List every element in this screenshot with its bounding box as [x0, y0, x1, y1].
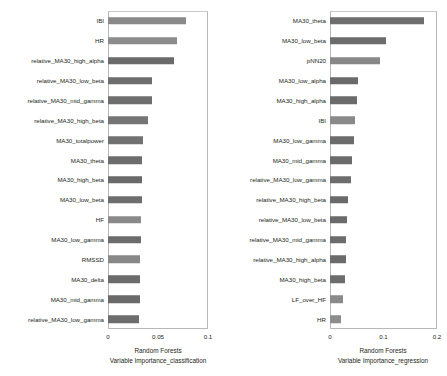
y-axis-tick-label: relative_MA30_low_beta	[223, 216, 330, 223]
bar-row: relative_MA30_low_gamma	[0, 309, 223, 329]
bar	[330, 236, 346, 244]
bar-rows-regression: MA30_thetaMA30_low_betapNN20MA30_low_alp…	[223, 11, 447, 329]
bar-row: relative_MA30_high_beta	[0, 110, 223, 130]
y-axis-tick-label: relative_MA30_high_alpha	[223, 256, 330, 263]
bar	[108, 236, 141, 244]
bar-track	[108, 91, 223, 111]
bar	[108, 156, 142, 164]
bar-track	[330, 289, 447, 309]
x-axis-title-line1: Random Forests	[323, 346, 443, 356]
y-axis-tick-label: MA30_low_gamma	[0, 236, 108, 243]
bar-row: HR	[0, 31, 223, 51]
y-axis-tick-label: pNN20	[223, 57, 330, 64]
bar	[108, 97, 152, 105]
y-axis-tick-label: relative_MA30_high_alpha	[0, 57, 108, 64]
y-axis-tick-label: relative_MA30_low_gamma	[223, 176, 330, 183]
bar-row: MA30_low_gamma	[0, 230, 223, 250]
bar	[108, 77, 152, 85]
bar	[108, 176, 142, 184]
bar	[108, 37, 177, 45]
bar-row: HR	[223, 309, 447, 329]
x-axis-tick-label: 0.2	[433, 333, 442, 340]
bar-track	[108, 289, 223, 309]
bar	[330, 156, 352, 164]
y-axis-tick-label: HR	[0, 37, 108, 44]
bar-track	[330, 309, 447, 329]
y-axis-tick-label: MA30_theta	[0, 157, 108, 164]
y-axis-tick-label: IBI	[0, 17, 108, 24]
y-axis-tick-label: RMSSD	[0, 256, 108, 263]
bar-row: MA30_mid_gamma	[0, 289, 223, 309]
x-axis-tick-label: 0.1	[379, 333, 388, 340]
bar	[108, 196, 142, 204]
bar-track	[330, 130, 447, 150]
y-axis-tick-label: MA30_low_beta	[0, 196, 108, 203]
y-axis-tick-label: HF	[0, 216, 108, 223]
bar-track	[108, 170, 223, 190]
y-axis-tick-label: MA30_mid_gamma	[223, 157, 330, 164]
bar-row: MA30_high_beta	[223, 269, 447, 289]
figure-random-forests-variable-importance: IBIHRrelative_MA30_high_alpharelative_MA…	[0, 0, 447, 376]
y-axis-tick-label: HR	[223, 316, 330, 323]
x-axis-title-line2: Variable Importance_regression	[323, 356, 443, 366]
bar	[330, 37, 386, 45]
bar	[108, 136, 143, 144]
y-axis-tick-label: MA30_low_gamma	[223, 137, 330, 144]
bar-track	[108, 110, 223, 130]
y-axis-tick-label: IBI	[223, 117, 330, 124]
bar-row: MA30_totalpower	[0, 130, 223, 150]
y-axis-tick-label: MA30_low_beta	[223, 37, 330, 44]
panel-regression: MA30_thetaMA30_low_betapNN20MA30_low_alp…	[223, 0, 447, 376]
y-axis-tick-label: MA30_mid_gamma	[0, 296, 108, 303]
bar-track	[330, 51, 447, 71]
bar-row: IBI	[0, 11, 223, 31]
bar-track	[108, 269, 223, 289]
bar-track	[108, 190, 223, 210]
bar	[108, 216, 141, 224]
x-axis-title-classification: Random Forests Variable Importance_class…	[108, 346, 208, 365]
bar-track	[108, 250, 223, 270]
x-axis-title-regression: Random Forests Variable Importance_regre…	[323, 346, 443, 365]
panel-classification: IBIHRrelative_MA30_high_alpharelative_MA…	[0, 0, 223, 376]
bar-row: relative_MA30_high_alpha	[0, 51, 223, 71]
bar-track	[330, 170, 447, 190]
bar	[330, 176, 351, 184]
bar	[108, 57, 174, 65]
x-axis-title-line1: Random Forests	[108, 346, 208, 356]
bar	[108, 315, 139, 323]
bar-row: MA30_theta	[0, 150, 223, 170]
bar	[330, 97, 357, 105]
bar-track	[330, 250, 447, 270]
bar	[108, 256, 140, 264]
bar-track	[108, 130, 223, 150]
bar-row: MA30_delta	[0, 269, 223, 289]
bar-track	[108, 51, 223, 71]
bar-row: IBI	[223, 110, 447, 130]
bar-track	[108, 71, 223, 91]
bar-row: RMSSD	[0, 250, 223, 270]
y-axis-tick-label: LF_over_HF	[223, 296, 330, 303]
x-axis-tick-label: 0.1	[204, 333, 213, 340]
y-axis-tick-label: MA30_high_alpha	[223, 97, 330, 104]
bar-track	[330, 91, 447, 111]
bar-row: relative_MA30_low_beta	[223, 210, 447, 230]
bar-track	[108, 150, 223, 170]
bar	[330, 17, 424, 25]
x-axis-tick-label: 0	[106, 333, 109, 340]
bar	[330, 295, 343, 303]
y-axis-tick-label: relative_MA30_low_beta	[0, 77, 108, 84]
bar-row: MA30_low_beta	[0, 190, 223, 210]
bar-track	[108, 31, 223, 51]
bar-row: MA30_high_beta	[0, 170, 223, 190]
bar	[330, 77, 358, 85]
bar-row: MA30_low_alpha	[223, 71, 447, 91]
y-axis-tick-label: MA30_theta	[223, 17, 330, 24]
bar-row: LF_over_HF	[223, 289, 447, 309]
bar-row: relative_MA30_low_beta	[0, 71, 223, 91]
bar-row: pNN20	[223, 51, 447, 71]
bar	[330, 315, 341, 323]
bar-row: relative_MA30_high_beta	[223, 190, 447, 210]
bar	[330, 276, 345, 284]
bar-track	[330, 31, 447, 51]
bar	[108, 295, 140, 303]
